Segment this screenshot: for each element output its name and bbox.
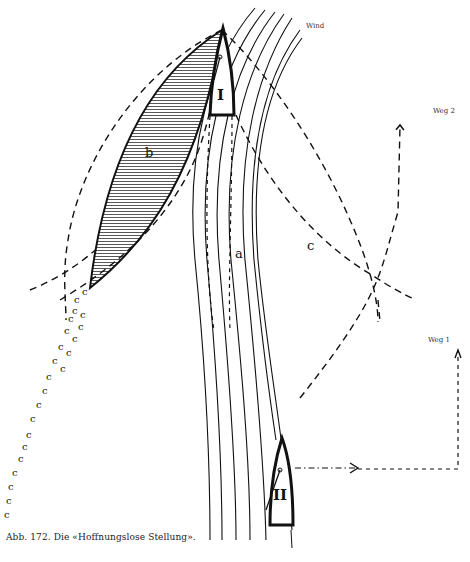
boat-2: II (266, 438, 293, 548)
svg-text:c: c (74, 294, 80, 305)
svg-text:c: c (4, 509, 10, 520)
path-weg-2 (300, 126, 400, 398)
weg-1-up-arrow-icon (455, 350, 461, 358)
svg-text:c: c (58, 341, 64, 352)
region-a-label: a (235, 246, 243, 261)
arc-b-to-c (236, 115, 412, 298)
svg-text:c: c (64, 325, 70, 336)
wake-trail: cc cc cc cc cc cc cc cc cc cc cc c (4, 286, 88, 520)
weg-2-label: Weg 2 (433, 107, 455, 115)
svg-text:c: c (6, 495, 12, 506)
svg-text:c: c (72, 333, 78, 344)
svg-text:c: c (42, 385, 48, 396)
boat-2-hull (270, 438, 293, 525)
diagram-canvas: Wind I b a c Weg 2 Weg 1 II cc (0, 0, 470, 562)
svg-text:c: c (52, 355, 58, 366)
svg-text:c: c (66, 347, 72, 358)
boat-2-label: II (273, 486, 287, 504)
shaded-region-b (90, 30, 222, 288)
weg-1-label: Weg 1 (428, 336, 450, 344)
svg-text:c: c (68, 313, 74, 324)
svg-text:c: c (46, 371, 52, 382)
svg-text:c: c (18, 453, 24, 464)
svg-text:c: c (26, 429, 32, 440)
boat-1-label: I (217, 86, 224, 104)
figure-caption: Abb. 172. Die «Hoffnungslose Stellung». (6, 532, 196, 542)
svg-text:c: c (8, 481, 14, 492)
region-b-label: b (145, 145, 153, 160)
svg-text:c: c (30, 413, 36, 424)
boat1-shadow-line-right (229, 116, 232, 330)
region-c-label: c (307, 238, 314, 253)
svg-text:c: c (36, 399, 42, 410)
svg-text:c: c (80, 309, 86, 320)
svg-text:c: c (60, 363, 66, 374)
arc-c (222, 30, 378, 322)
svg-text:c: c (78, 321, 84, 332)
arc-c-extension (378, 300, 380, 322)
svg-text:c: c (22, 441, 28, 452)
svg-text:c: c (82, 286, 88, 297)
svg-text:c: c (12, 467, 18, 478)
wind-label: Wind (306, 22, 325, 30)
path-weg-1 (358, 352, 458, 469)
